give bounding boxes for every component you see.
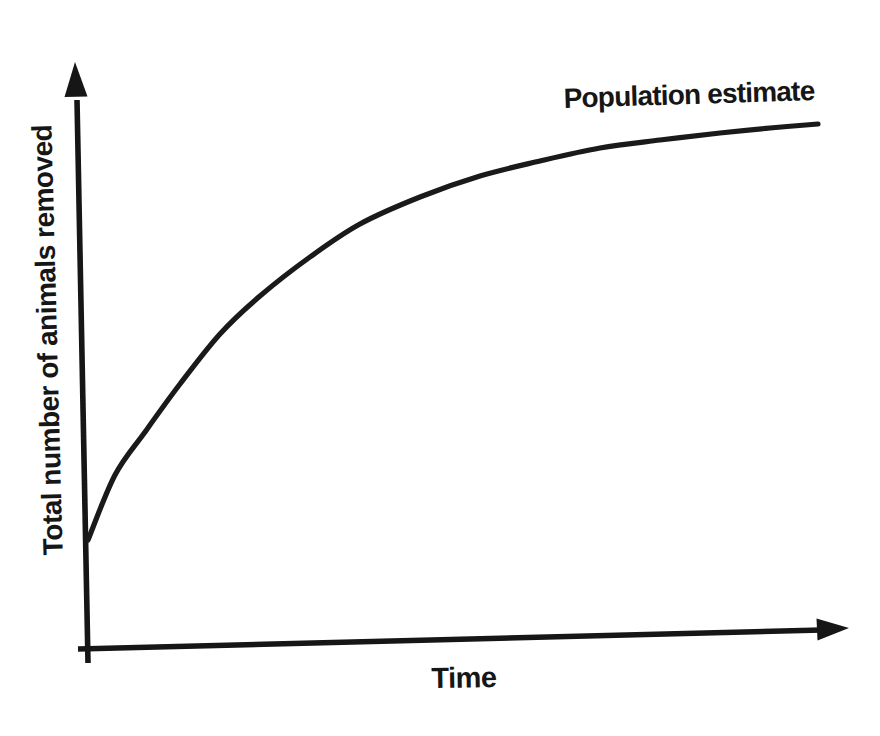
chart-canvas	[0, 0, 880, 736]
x-axis	[78, 619, 849, 650]
y-axis-arrowhead-icon	[65, 62, 88, 97]
removal-method-chart: Total number of animals removed Populati…	[0, 0, 880, 736]
population-curve	[88, 124, 818, 540]
x-axis-label: Time	[431, 661, 497, 695]
x-axis-line	[78, 630, 822, 649]
y-axis	[65, 62, 89, 663]
x-axis-arrowhead-icon	[817, 619, 850, 641]
y-axis-line	[77, 100, 88, 663]
